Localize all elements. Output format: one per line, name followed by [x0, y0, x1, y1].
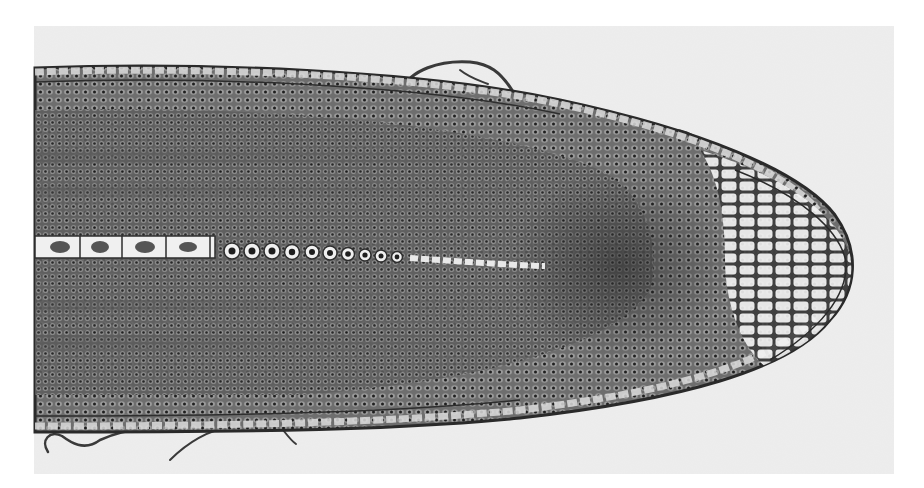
root-tip-micrograph	[0, 0, 924, 488]
